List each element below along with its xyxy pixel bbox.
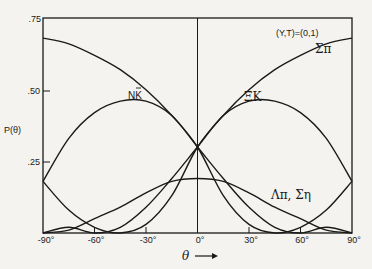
label-nkbar: NK xyxy=(128,90,142,101)
label-xi-k: ΞK xyxy=(244,90,262,104)
x-axis-label: θ xyxy=(182,249,190,263)
y-tick-50: .50 xyxy=(27,86,40,96)
x-tick-90: 90° xyxy=(347,235,361,245)
chart: .75 .50 .25 P(θ) -90° -60° -30° 0° 30° 6… xyxy=(0,0,372,269)
x-tick-30: 30° xyxy=(244,235,258,245)
y-tick-75: .75 xyxy=(28,14,41,24)
label-lambda-pi-sigma-eta: Λπ, Ση xyxy=(270,188,311,202)
annotation-yt: (Y,T)=(0,1) xyxy=(276,28,319,38)
arrow-icon xyxy=(212,253,218,259)
label-sigma-pi: Σπ xyxy=(315,42,331,56)
x-tick-m30: -30° xyxy=(140,235,157,245)
x-tick-60: 60° xyxy=(295,235,309,245)
y-axis-label: P(θ) xyxy=(4,125,21,135)
x-tick-m90: -90° xyxy=(38,235,55,245)
x-tick-m60: -60° xyxy=(88,235,105,245)
y-tick-25: .25 xyxy=(27,157,40,167)
x-tick-0: 0° xyxy=(196,235,205,245)
